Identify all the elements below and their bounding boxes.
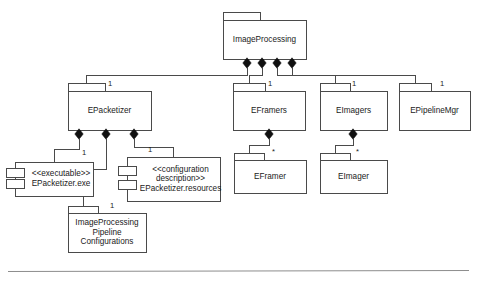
node-label: EPacketizer.exe: [32, 179, 91, 188]
composition-link-epacketizer-to-epacketizer-resources: [134, 139, 174, 157]
node-epacketizer-exe[interactable]: <<executable>>EPacketizer.exe: [7, 163, 94, 197]
node-label: Configurations: [81, 237, 134, 246]
composition-link-epacketizer-to-epacketizer-exe: [54, 139, 79, 162]
node-eimager[interactable]: EImager: [321, 154, 388, 194]
node-label: Pipeline: [92, 228, 122, 237]
node-label: EPacketizer: [88, 106, 132, 115]
component-port-icon-2: [7, 180, 25, 189]
node-label: ImageProcessing: [233, 35, 297, 44]
package-tab: [235, 154, 265, 161]
component-port-icon-1: [119, 167, 137, 176]
node-label: description>>: [156, 174, 205, 183]
uml-diagram-canvas: ImageProcessingEPacketizerEFramersEImage…: [0, 0, 477, 286]
node-eimagers[interactable]: EImagers: [321, 84, 388, 131]
node-epacketizer[interactable]: EPacketizer: [69, 84, 152, 131]
multiplicity-label-4: 1: [82, 148, 86, 157]
node-label: EImagers: [336, 106, 371, 115]
multiplicity-label-8: *: [356, 147, 359, 156]
multiplicity-label-0: 1: [108, 79, 112, 88]
node-eframer[interactable]: EFramer: [235, 154, 307, 194]
uml-diagram-svg: ImageProcessingEPacketizerEFramersEImage…: [0, 0, 477, 286]
package-tab: [69, 84, 106, 92]
composition-link-image-processing-to-eframers: [249, 68, 262, 83]
node-label: EFramer: [254, 172, 286, 181]
multiplicity-label-2: 1: [352, 79, 356, 88]
node-label: EPipelineMgr: [410, 106, 459, 115]
node-eframers[interactable]: EFramers: [234, 84, 306, 131]
footer-divider-rule: [8, 271, 469, 272]
node-label: <<executable>>: [32, 169, 91, 178]
multiplicity-label-6: 1: [110, 201, 114, 210]
node-ip-pipeline-configurations[interactable]: ImageProcessingPipelineConfigurations: [69, 207, 147, 253]
package-tab: [224, 13, 261, 21]
package-tab: [234, 84, 266, 92]
node-label: EPacketizer.resources: [140, 184, 221, 193]
package-tab: [321, 84, 351, 92]
multiplicity-label-1: 1: [268, 79, 272, 88]
node-label: <<configuration: [152, 165, 209, 174]
multiplicity-label-5: 1: [148, 145, 152, 154]
node-label: EImager: [338, 172, 369, 181]
component-port-icon-1: [7, 169, 25, 178]
node-label: ImageProcessing: [75, 218, 139, 227]
multiplicity-label-3: 1: [440, 79, 444, 88]
node-image-processing[interactable]: ImageProcessing: [224, 13, 307, 60]
component-port-icon-2: [119, 181, 137, 190]
node-epipelinemgr[interactable]: EPipelineMgr: [400, 84, 471, 131]
node-label: EFramers: [251, 106, 287, 115]
package-tab: [69, 207, 99, 214]
package-tab: [321, 154, 351, 161]
composition-link-eframers-to-eframer: [249, 139, 269, 153]
multiplicity-label-7: *: [272, 147, 275, 156]
footer-rule-layer: [8, 271, 469, 272]
composition-link-eimagers-to-eimager: [335, 139, 353, 153]
package-tab: [400, 84, 432, 92]
node-epacketizer-resources[interactable]: <<configurationdescription>>EPacketizer.…: [119, 158, 222, 202]
